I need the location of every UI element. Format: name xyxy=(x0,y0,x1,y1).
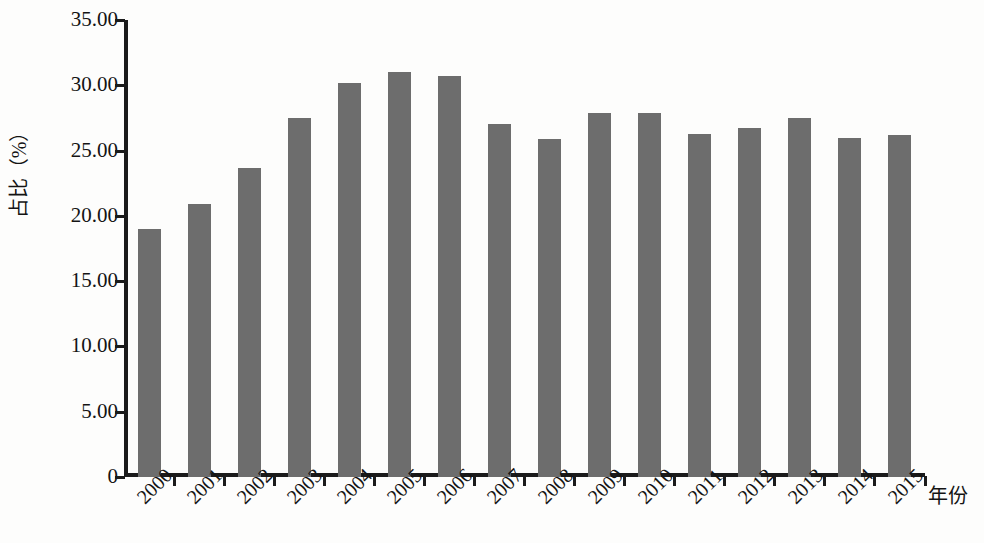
bar xyxy=(338,83,361,477)
bar-series xyxy=(124,20,925,477)
y-axis-tick-label: 5.00 xyxy=(18,401,118,422)
bar xyxy=(138,229,161,477)
bar xyxy=(688,134,711,477)
y-axis-tick-label: 20.00 xyxy=(18,205,118,226)
y-axis-tick-label: 10.00 xyxy=(18,335,118,356)
bar xyxy=(538,139,561,477)
bar xyxy=(638,113,661,477)
plot-area xyxy=(124,20,925,477)
bar xyxy=(788,118,811,477)
y-axis-tick-label: 35.00 xyxy=(18,9,118,30)
x-axis-tick-label-group: 2000200120022003200420052006200720082009… xyxy=(124,481,925,543)
bar xyxy=(438,76,461,477)
bar xyxy=(888,135,911,477)
bar-chart: 占比（%） 05.0010.0015.0020.0025.0030.0035.0… xyxy=(0,0,984,543)
bar xyxy=(188,204,211,477)
x-axis-title: 年份 xyxy=(928,486,968,506)
y-axis-tick-label: 0 xyxy=(18,466,118,487)
bar xyxy=(588,113,611,477)
y-axis-tick-label-group: 05.0010.0015.0020.0025.0030.0035.00 xyxy=(18,0,118,543)
bar xyxy=(488,124,511,477)
bar xyxy=(238,168,261,477)
y-axis-tick-label: 30.00 xyxy=(18,74,118,95)
bar xyxy=(288,118,311,477)
bar xyxy=(838,138,861,477)
y-axis-tick-label: 15.00 xyxy=(18,270,118,291)
bar xyxy=(738,128,761,477)
y-axis-tick-label: 25.00 xyxy=(18,140,118,161)
bar xyxy=(388,72,411,477)
